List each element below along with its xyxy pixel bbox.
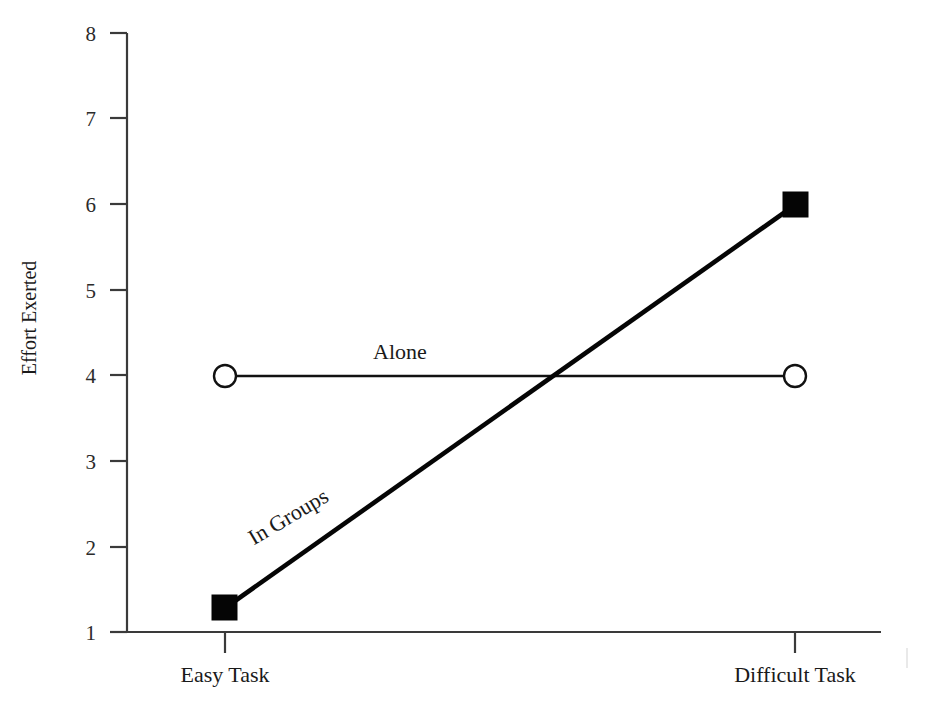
y-tick-labels: 8 7 6 5 4 3 2 1	[86, 22, 97, 645]
y-tick-label-2: 2	[86, 536, 97, 560]
y-tick-label-6: 6	[86, 193, 97, 217]
series-alone	[214, 365, 806, 387]
x-label-easy-task: Easy Task	[180, 662, 269, 687]
series-alone-marker-difficult-task	[784, 365, 806, 387]
series-in-groups-line	[225, 205, 795, 608]
y-tick-marks	[110, 33, 127, 632]
line-chart: 8 7 6 5 4 3 2 1 Effort Exerted Easy Task…	[0, 0, 930, 704]
series-in-groups-marker-easy-task	[212, 595, 237, 620]
series-alone-marker-easy-task	[214, 365, 236, 387]
y-tick-label-7: 7	[86, 107, 97, 131]
y-tick-label-8: 8	[86, 22, 97, 46]
y-tick-label-4: 4	[86, 364, 97, 388]
series-in-groups	[212, 192, 808, 620]
series-label-alone: Alone	[373, 339, 427, 364]
axis-group	[127, 33, 881, 632]
y-tick-label-3: 3	[86, 450, 97, 474]
y-axis-title: Effort Exerted	[18, 261, 40, 376]
y-tick-label-5: 5	[86, 279, 97, 303]
x-tick-marks	[225, 632, 795, 653]
x-label-difficult-task: Difficult Task	[734, 662, 856, 687]
scan-artifact	[906, 648, 908, 668]
series-in-groups-marker-difficult-task	[783, 192, 808, 217]
chart-figure: 8 7 6 5 4 3 2 1 Effort Exerted Easy Task…	[0, 0, 930, 704]
y-tick-label-1: 1	[86, 621, 97, 645]
